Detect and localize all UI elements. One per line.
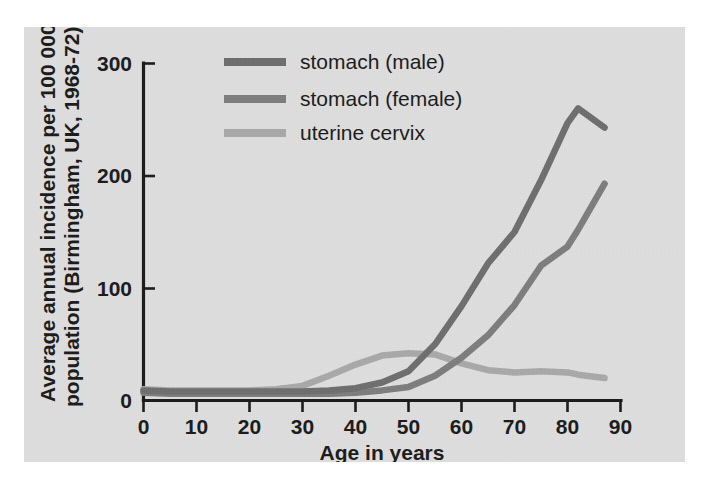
legend-label-stomach-male: stomach (male) (300, 50, 445, 73)
chart-page: Average annual incidence per 100 000 pop… (0, 0, 709, 488)
series-line-stomach-female (144, 184, 605, 394)
x-tick-label-80: 80 (556, 415, 579, 438)
data-series-group (144, 108, 605, 393)
x-tick-label-70: 70 (503, 415, 526, 438)
x-tick-label-40: 40 (344, 415, 367, 438)
y-tick-label-200: 200 (97, 164, 132, 187)
legend-label-uterine-cervix: uterine cervix (300, 121, 425, 144)
legend-label-stomach-female: stomach (female) (300, 87, 462, 110)
x-axis-ticks (144, 401, 621, 413)
x-tick-label-90: 90 (609, 415, 632, 438)
x-axis-title: Age in years (320, 441, 445, 462)
x-tick-label-50: 50 (397, 415, 420, 438)
y-tick-label-300: 300 (97, 52, 132, 75)
y-axis-title-line1: Average annual incidence per 100 000 (36, 27, 59, 402)
x-tick-label-60: 60 (450, 415, 473, 438)
x-tick-label-30: 30 (291, 415, 314, 438)
x-tick-label-10: 10 (185, 415, 208, 438)
y-axis-ticks (144, 64, 156, 401)
line-chart: Average annual incidence per 100 000 pop… (24, 27, 685, 462)
y-axis-title-line2: population (Birmingham, UK, 1968-72) (60, 27, 83, 407)
x-tick-label-20: 20 (238, 415, 261, 438)
y-tick-label-100: 100 (97, 277, 132, 300)
chart-legend: stomach (male) stomach (female) uterine … (224, 50, 462, 144)
y-tick-label-0: 0 (120, 389, 132, 412)
x-tick-label-0: 0 (138, 415, 150, 438)
series-line-stomach-male (144, 108, 605, 391)
figure-panel: Average annual incidence per 100 000 pop… (24, 27, 685, 462)
